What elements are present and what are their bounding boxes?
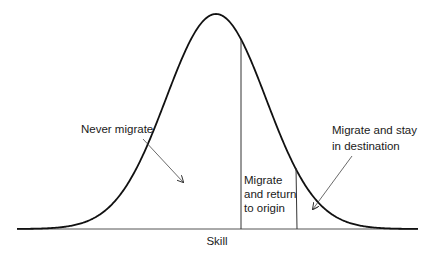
return-label-line1: Migrate [244, 174, 282, 186]
normal-curve [17, 14, 418, 229]
stay-arrow [313, 156, 352, 209]
return-label-line3: to origin [244, 202, 285, 214]
skill-distribution-diagram: Never migrate Migrate and return to orig… [0, 0, 434, 257]
stay-label-line1: Migrate and stay [332, 124, 417, 136]
stay-label-line2: in destination [332, 140, 400, 152]
never-migrate-label: Never migrate [81, 123, 153, 135]
x-axis-label: Skill [206, 235, 227, 247]
never-migrate-arrow [143, 139, 183, 182]
return-label-line2: and return [244, 188, 296, 200]
